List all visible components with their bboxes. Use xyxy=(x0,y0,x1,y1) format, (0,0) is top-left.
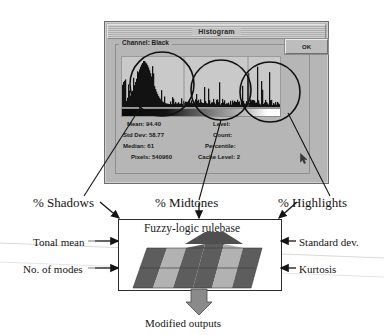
stat-median: Median: 61 xyxy=(123,143,154,149)
dialog-titlebar[interactable]: Histogram xyxy=(107,24,326,39)
fuzzy-rulebase-label: Fuzzy-logic rulebase xyxy=(0,222,384,234)
stat-mean: Mean: 94.40 xyxy=(127,121,161,127)
stat-percentile: Percentile: xyxy=(205,143,236,149)
label-standard-dev: Standard dev. xyxy=(299,236,359,248)
stat-level: Level: xyxy=(213,121,230,127)
label-shadows: % Shadows xyxy=(33,195,94,211)
channel-label: Channel: Black xyxy=(119,39,172,46)
histogram-plot-frame xyxy=(121,56,281,108)
stat-cache-level: Cache Level: 2 xyxy=(198,154,240,160)
stat-stddev: Std Dev: 58.77 xyxy=(123,132,164,138)
ok-button[interactable]: OK xyxy=(285,39,328,54)
label-modified-outputs: Modified outputs xyxy=(145,317,221,329)
mouse-pointer-icon xyxy=(300,153,310,165)
label-no-of-modes: No. of modes xyxy=(23,263,83,275)
stat-pixels: Pixels: 540960 xyxy=(131,154,172,160)
histogram-dialog[interactable]: Histogram Channel: Black OK Mean: 94.40 … xyxy=(104,21,329,184)
histogram-plot xyxy=(122,57,280,107)
stat-count: Count: xyxy=(213,132,232,138)
label-tonal-mean: Tonal mean xyxy=(33,236,84,248)
label-midtones: % Midtones xyxy=(155,195,218,211)
label-kurtosis: Kurtosis xyxy=(299,263,336,275)
tone-gradient-bar[interactable] xyxy=(121,108,281,117)
label-highlights: % Highlights xyxy=(278,195,347,211)
dialog-title: Histogram xyxy=(192,28,240,35)
